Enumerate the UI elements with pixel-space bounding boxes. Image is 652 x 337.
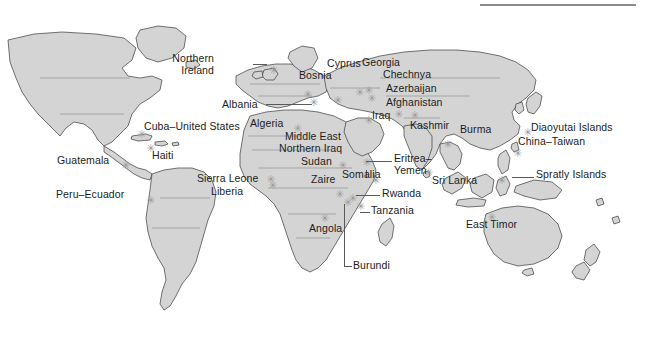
- label-chechnya: Chechnya: [383, 69, 431, 81]
- label-somalia: Somalia: [342, 169, 381, 181]
- label-cyprus-text: Cyprus: [327, 57, 361, 69]
- label-burma-text: Burma: [460, 123, 491, 135]
- landmass-tasmania: [522, 268, 534, 276]
- landmass-pacific-island-1: [596, 198, 604, 206]
- label-diaoyutai-islands: Diaoyutai Islands: [531, 122, 613, 134]
- label-georgia: Georgia: [362, 57, 400, 69]
- landmass-java: [456, 198, 486, 207]
- label-iraq: Iraq: [372, 110, 391, 122]
- label-northern-ireland: Northern Ireland: [152, 52, 214, 76]
- label-spratly-islands: Spratly Islands: [536, 169, 606, 181]
- label-east-timor-text: East Timor: [466, 218, 517, 230]
- label-guatemala-text: Guatemala: [57, 154, 109, 166]
- label-chechnya-text: Chechnya: [383, 68, 431, 80]
- label-sierra-leone: Sierra Leone: [197, 173, 258, 185]
- label-bosnia: Bosnia: [299, 70, 332, 82]
- label-algeria: Algeria: [250, 118, 283, 130]
- label-cuba-united-states: Cuba–United States: [144, 121, 240, 133]
- label-eritrea-yemen: Eritrea– Yemen: [394, 152, 432, 176]
- label-angola-text: Angola: [309, 222, 342, 234]
- label-spratly-islands-text: Spratly Islands: [536, 168, 606, 180]
- label-northern-ireland-line1: Northern: [172, 52, 214, 64]
- landmass-pacific-island-2: [612, 216, 620, 224]
- label-sudan: Sudan: [301, 156, 332, 168]
- label-burundi-text: Burundi: [353, 259, 390, 271]
- landmass-philippines: [498, 150, 510, 174]
- label-kashmir: Kashmir: [410, 120, 449, 132]
- label-albania: Albania: [222, 99, 258, 111]
- label-china-taiwan-text: China–Taiwan: [518, 135, 585, 147]
- label-burundi: Burundi: [353, 260, 390, 272]
- label-northern-ireland-line2: Ireland: [181, 64, 214, 76]
- label-angola: Angola: [309, 223, 342, 235]
- figure-world-conflict-map: ✳ ✳ ✳ ✳ ✳ ✳ ✳ ✳ ✳ ✳ ✳ ✳ ✳ ✳ ✳ ✳ ✳ ✳ ✳ ✳ …: [0, 0, 652, 337]
- label-cyprus: Cyprus: [327, 58, 361, 70]
- label-iraq-text: Iraq: [372, 109, 391, 121]
- label-algeria-text: Algeria: [250, 117, 283, 129]
- landmass-central-america: [104, 146, 152, 180]
- label-tanzania: Tanzania: [371, 205, 414, 217]
- label-somalia-text: Somalia: [342, 168, 381, 180]
- leader-rwanda: [356, 195, 380, 196]
- leader-burundi-horizontal: [344, 266, 352, 267]
- label-sierra-leone-text: Sierra Leone: [197, 172, 258, 184]
- landmass-hispaniola: [155, 141, 168, 146]
- label-sudan-text: Sudan: [301, 155, 332, 167]
- label-liberia: Liberia: [211, 186, 243, 198]
- label-rwanda: Rwanda: [382, 188, 421, 200]
- top-horizontal-rule: [480, 4, 636, 6]
- label-haiti: Haiti: [152, 150, 174, 162]
- landmass-korea: [515, 102, 524, 114]
- landmass-british-isles: [262, 68, 278, 80]
- leader-eritrea-yemen: [366, 161, 392, 162]
- landmass-cuba: [131, 134, 152, 141]
- landmass-madagascar: [378, 218, 394, 246]
- label-guatemala: Guatemala: [57, 155, 109, 167]
- label-tanzania-text: Tanzania: [371, 204, 414, 216]
- landmass-puerto-rico: [172, 142, 179, 146]
- label-peru-ecuador: Peru–Ecuador: [56, 189, 124, 201]
- label-azerbaijan-text: Azerbaijan: [386, 82, 437, 94]
- label-eritrea-yemen-line2: Yemen: [394, 164, 427, 176]
- label-kashmir-text: Kashmir: [410, 119, 449, 131]
- leader-albania: [266, 104, 312, 105]
- landmass-australia: [484, 206, 562, 266]
- landmass-sulawesi: [496, 176, 510, 196]
- label-middle-east-text: Middle East: [285, 130, 341, 142]
- map-canvas: ✳ ✳ ✳ ✳ ✳ ✳ ✳ ✳ ✳ ✳ ✳ ✳ ✳ ✳ ✳ ✳ ✳ ✳ ✳ ✳ …: [0, 18, 652, 318]
- label-cuba-united-states-text: Cuba–United States: [144, 120, 240, 132]
- label-sri-lanka: Sri Lanka: [432, 175, 477, 187]
- label-georgia-text: Georgia: [362, 56, 400, 68]
- label-eritrea-yemen-line1: Eritrea–: [394, 152, 432, 164]
- label-sri-lanka-text: Sri Lanka: [432, 174, 477, 186]
- label-peru-ecuador-text: Peru–Ecuador: [56, 188, 124, 200]
- leader-burundi: [344, 204, 345, 266]
- label-albania-text: Albania: [222, 98, 258, 110]
- label-liberia-text: Liberia: [211, 185, 243, 197]
- label-china-taiwan: China–Taiwan: [518, 136, 585, 148]
- label-zaire-text: Zaire: [311, 173, 335, 185]
- label-northern-iraq: Northern Iraq: [279, 143, 342, 155]
- landmass-new-zealand: [584, 244, 600, 266]
- label-east-timor: East Timor: [466, 219, 517, 231]
- leader-northern-ireland: [253, 64, 267, 65]
- leader-spratly: [512, 177, 534, 178]
- label-diaoyutai-islands-text: Diaoyutai Islands: [531, 121, 613, 133]
- label-burma: Burma: [460, 124, 491, 136]
- label-bosnia-text: Bosnia: [299, 69, 332, 81]
- landmass-southeast-asia: [440, 142, 462, 170]
- leader-tanzania: [360, 212, 370, 213]
- label-northern-iraq-text: Northern Iraq: [279, 142, 342, 154]
- label-haiti-text: Haiti: [152, 149, 174, 161]
- landmass-new-zealand-south: [572, 262, 590, 280]
- label-afghanistan-text: Afghanistan: [386, 96, 443, 108]
- landmass-south-america: [146, 168, 216, 310]
- label-zaire: Zaire: [311, 174, 335, 186]
- landmass-new-guinea: [514, 180, 562, 200]
- label-afghanistan: Afghanistan: [386, 97, 443, 109]
- label-azerbaijan: Azerbaijan: [386, 83, 437, 95]
- label-middle-east: Middle East: [285, 131, 341, 143]
- label-rwanda-text: Rwanda: [382, 187, 421, 199]
